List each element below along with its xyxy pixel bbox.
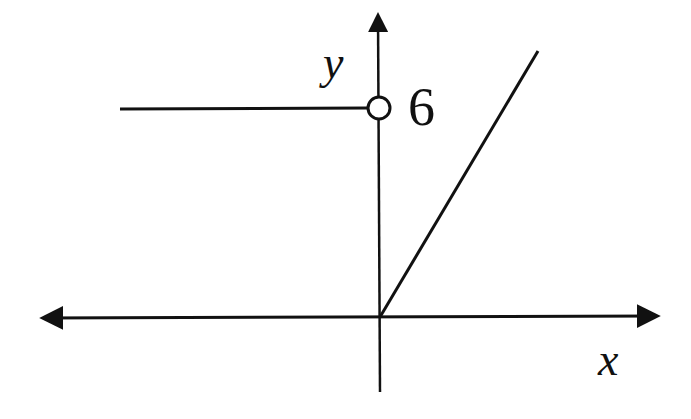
y-axis-label: y (319, 37, 344, 88)
y-axis (378, 16, 380, 392)
function-graph: y 6 x (0, 0, 691, 419)
x-axis (44, 316, 656, 318)
y-value-label: 6 (408, 77, 435, 137)
x-axis-label: x (597, 334, 619, 385)
diagonal-ray (380, 51, 538, 317)
open-circle-endpoint (368, 97, 390, 119)
horizontal-ray (120, 108, 368, 109)
